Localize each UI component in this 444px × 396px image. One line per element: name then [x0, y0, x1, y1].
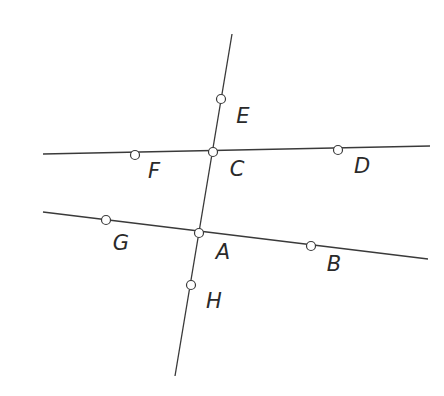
line-GB	[43, 212, 428, 259]
diagram-svg: E F C D G A B H	[0, 0, 444, 396]
point-D	[334, 146, 343, 155]
label-H: H	[206, 289, 222, 313]
label-C: C	[230, 157, 245, 181]
point-E	[217, 95, 226, 104]
label-D: D	[354, 154, 370, 178]
label-E: E	[236, 104, 250, 128]
point-B	[307, 242, 316, 251]
label-F: F	[148, 159, 161, 183]
point-C	[209, 148, 218, 157]
label-G: G	[113, 231, 129, 255]
labels-group: E F C D G A B H	[113, 104, 370, 313]
geometry-diagram: E F C D G A B H	[0, 0, 444, 396]
lines-group	[43, 34, 430, 376]
point-A	[195, 229, 204, 238]
label-B: B	[327, 252, 341, 276]
line-FD	[43, 146, 430, 154]
point-F	[131, 151, 140, 160]
line-EH	[175, 34, 232, 376]
point-H	[187, 281, 196, 290]
point-G	[102, 216, 111, 225]
label-A: A	[214, 240, 230, 264]
